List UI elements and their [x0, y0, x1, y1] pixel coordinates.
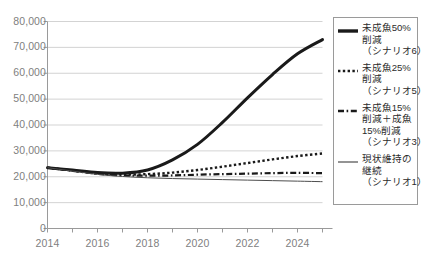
legend-label-line: （シナリオ6） [362, 45, 425, 57]
x-tick-label: 2016 [76, 237, 120, 249]
y-tick-label: 20,000 [0, 170, 52, 182]
x-axis-ticks [48, 229, 323, 233]
dotted-swatch [337, 63, 359, 75]
y-tick-label: 10,000 [0, 196, 52, 208]
legend-entry-4: 現状維持の継続（シナリオ1） [337, 153, 415, 188]
y-tick-label: 80,000 [0, 15, 52, 27]
x-tick-label: 2014 [26, 237, 70, 249]
data-series-group [48, 40, 323, 182]
y-tick-label: 30,000 [0, 144, 52, 156]
y-tick-label: 40,000 [0, 118, 52, 130]
legend-label-line: 現状維持の [362, 153, 425, 165]
y-tick-label: 60,000 [0, 66, 52, 78]
y-tick-label: 0 [0, 222, 52, 234]
legend-label-line: （シナリオ1） [362, 176, 425, 188]
x-tick-label: 2022 [226, 237, 270, 249]
legend-label-line: 未成魚25% [362, 62, 425, 74]
chart-legend: 未成魚50%削減（シナリオ6）未成魚25%削減（シナリオ5）未成魚15%削減＋成… [333, 17, 418, 205]
legend-entry-2: 未成魚25%削減（シナリオ5） [337, 62, 415, 97]
series-line-1 [48, 40, 323, 174]
legend-label: 未成魚50%削減（シナリオ6） [362, 22, 425, 57]
y-tick-label: 50,000 [0, 92, 52, 104]
legend-label-line: 未成魚50% [362, 22, 425, 34]
dashdot-swatch [337, 103, 359, 115]
legend-label-line: 15%削減 [362, 125, 425, 137]
legend-label: 未成魚15%削減＋成魚15%削減（シナリオ3） [362, 102, 425, 148]
x-tick-label: 2018 [126, 237, 170, 249]
legend-label-line: （シナリオ3） [362, 136, 425, 148]
solid-thick-swatch [337, 23, 359, 35]
legend-label-line: 削減 [362, 73, 425, 85]
legend-entry-3: 未成魚15%削減＋成魚15%削減（シナリオ3） [337, 102, 415, 148]
legend-label: 現状維持の継続（シナリオ1） [362, 153, 425, 188]
y-tick-label: 70,000 [0, 40, 52, 52]
legend-label-line: 継続 [362, 165, 425, 177]
legend-label-line: 未成魚15% [362, 102, 425, 114]
legend-label: 未成魚25%削減（シナリオ5） [362, 62, 425, 97]
x-tick-label: 2020 [176, 237, 220, 249]
legend-label-line: 削減 [362, 34, 425, 46]
x-tick-label: 2024 [276, 237, 320, 249]
legend-label-line: （シナリオ5） [362, 85, 425, 97]
legend-entry-1: 未成魚50%削減（シナリオ6） [337, 22, 415, 57]
legend-label-line: 削減＋成魚 [362, 113, 425, 125]
solid-thin-swatch [337, 154, 359, 166]
